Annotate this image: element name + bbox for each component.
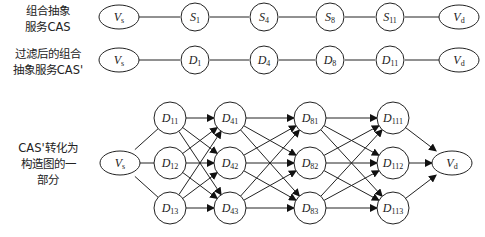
- graph-node-d111: D111: [377, 102, 409, 134]
- row2-node-d1: D1: [181, 46, 209, 74]
- graph-node-d83: D83: [294, 192, 326, 224]
- graph-sink-vd: Vd: [432, 151, 472, 175]
- row2-node-d8: D8: [316, 46, 344, 74]
- row2-node-d11: D11: [376, 46, 404, 74]
- graph-node-d43: D43: [214, 192, 246, 224]
- graph-edge: [406, 128, 436, 151]
- graph-edge: [135, 176, 158, 197]
- row1-node-s4: S4: [250, 3, 278, 31]
- service-composition-diagram: VsS1S4S8S11VdVsD1D4D8D11Vd VsVdD11D12D13…: [0, 0, 485, 237]
- row1-node-vd: Vd: [439, 5, 479, 29]
- row2-node-vd: Vd: [439, 48, 479, 72]
- row1-node-s11: S11: [376, 3, 404, 31]
- row2-node-vs: Vs: [99, 48, 139, 72]
- graph-node-d81: D81: [294, 102, 326, 134]
- chain-rows: VsS1S4S8S11VdVsD1D4D8D11Vd: [99, 3, 479, 74]
- graph-node-d13: D13: [154, 192, 186, 224]
- graph-node-d41: D41: [214, 102, 246, 134]
- row1-node-s8: S8: [316, 3, 344, 31]
- row1-node-s1: S1: [181, 3, 209, 31]
- construction-graph: VsVdD11D12D13D41D42D43D81D82D83D111D112D…: [100, 102, 472, 224]
- row2-node-d4: D4: [250, 46, 278, 74]
- graph-node-d113: D113: [377, 192, 409, 224]
- graph-node-d12: D12: [154, 147, 186, 179]
- graph-node-d82: D82: [294, 147, 326, 179]
- graph-node-d11: D11: [154, 102, 186, 134]
- graph-edge: [406, 175, 436, 198]
- graph-edge: [135, 129, 158, 150]
- graph-source-vs: Vs: [100, 151, 140, 175]
- graph-node-d42: D42: [214, 147, 246, 179]
- row1-node-vs: Vs: [99, 5, 139, 29]
- graph-node-d112: D112: [377, 147, 409, 179]
